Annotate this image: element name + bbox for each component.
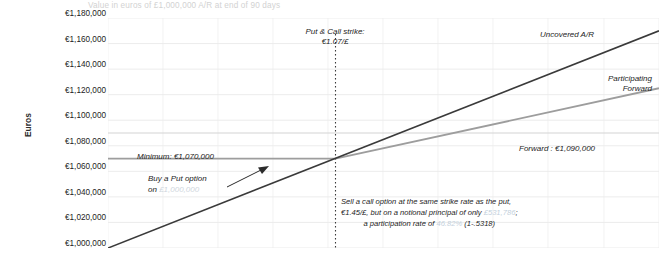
- y-tick-label: €1,100,000: [34, 111, 106, 120]
- y-tick-label: €1,140,000: [34, 60, 106, 69]
- y-tick-label: €1,040,000: [34, 187, 106, 196]
- sell-call-line-3: a participation rate of 46.82% (1-.5318): [341, 218, 518, 229]
- annotation-forward-value: Forward : €1,090,000: [519, 144, 595, 154]
- participation-rate: 46.82%: [436, 219, 462, 228]
- participating-forward-chart: Value in euros of £1,000,000 A/R at end …: [0, 0, 667, 262]
- y-tick-label: €1,080,000: [34, 136, 106, 145]
- buy-put-notional: £1,000,000: [159, 185, 199, 194]
- sell-call-line-1: Sell a call option at the same strike ra…: [341, 197, 511, 206]
- participation-prefix: a participation rate of: [363, 219, 436, 228]
- y-axis-tick-labels: €1,180,000 €1,160,000 €1,140,000 €1,120,…: [34, 13, 106, 253]
- y-tick-label: €1,020,000: [34, 213, 106, 222]
- y-tick-label: €1,160,000: [34, 34, 106, 43]
- buy-put-prefix: on: [148, 185, 159, 194]
- annotation-participating-forward: Participating Forward: [568, 74, 652, 94]
- buy-put-arrow-icon: [225, 163, 275, 189]
- participation-suffix: (1-.5318): [462, 219, 495, 228]
- y-tick-label: €1,120,000: [34, 85, 106, 94]
- chart-title: Value in euros of £1,000,000 A/R at end …: [88, 1, 508, 10]
- participating-line-1: Participating: [608, 74, 652, 83]
- y-tick-label: €1,060,000: [34, 162, 106, 171]
- y-tick-label: €1,180,000: [34, 9, 106, 18]
- y-tick-label: €1,000,000: [34, 239, 106, 248]
- buy-put-line-1: Buy a Put option: [148, 174, 207, 183]
- annotation-buy-put-option: Buy a Put option on £1,000,000: [148, 174, 207, 196]
- strike-line-2: €1.07/£: [322, 37, 349, 46]
- annotation-put-call-strike: Put & Call strike: €1.07/£: [275, 27, 395, 47]
- annotation-minimum-value: Minimum: €1,070,000: [137, 152, 214, 162]
- y-axis-title: Euros: [23, 95, 33, 155]
- sell-call-suffix: ;: [515, 208, 517, 217]
- annotation-sell-call-option: Sell a call option at the same strike ra…: [341, 196, 518, 229]
- sell-call-line-2: €1.45/£, but on a notional principal of …: [341, 207, 518, 218]
- sell-call-notional: £531,786: [484, 208, 516, 217]
- annotation-uncovered-ar: Uncovered A/R: [540, 30, 594, 40]
- sell-call-prefix: €1.45/£, but on a notional principal of …: [341, 208, 484, 217]
- strike-line-1: Put & Call strike:: [305, 27, 364, 36]
- participating-line-2: Forward: [623, 84, 652, 93]
